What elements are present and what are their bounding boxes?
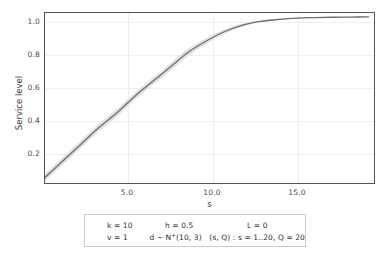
param-d-pre: d ~ N [149, 233, 171, 242]
parameter-row: k = 10 h = 0.5 L = 0 [85, 219, 305, 231]
param-k: k = 10 [107, 221, 165, 230]
param-sQ-policy: (s, Q) : s = 1..20, Q = 20 [209, 233, 305, 242]
y-tick-label-1.0: 1.0 [16, 17, 40, 26]
param-v: v = 1 [107, 233, 149, 242]
x-axis-label: s [44, 199, 375, 209]
service-level-curve-svg [45, 13, 374, 183]
param-L: L = 0 [247, 221, 268, 230]
param-d-post: (10, 3) [176, 233, 202, 242]
chart-figure: Service level 1.0 0.8 0.6 0.4 0.2 5.0 10… [0, 0, 390, 261]
parameter-box: k = 10 h = 0.5 L = 0 v = 1 d ~ N+(10, 3)… [84, 214, 306, 247]
plot-area [44, 12, 375, 184]
y-tick-label-0.8: 0.8 [16, 50, 40, 59]
y-tick-label-0.6: 0.6 [16, 83, 40, 92]
y-tick-label-0.2: 0.2 [16, 149, 40, 158]
y-tick-label-0.4: 0.4 [16, 116, 40, 125]
y-axis-label: Service level [14, 58, 24, 148]
param-h: h = 0.5 [165, 221, 247, 230]
x-tick-label-15.0: 15.0 [277, 188, 317, 197]
service-level-line [45, 17, 369, 178]
param-d-distribution: d ~ N+(10, 3) [149, 233, 209, 242]
x-tick-label-5.0: 5.0 [107, 188, 147, 197]
parameter-row: v = 1 d ~ N+(10, 3) (s, Q) : s = 1..20, … [85, 231, 305, 243]
x-tick-label-10.0: 10.0 [192, 188, 232, 197]
